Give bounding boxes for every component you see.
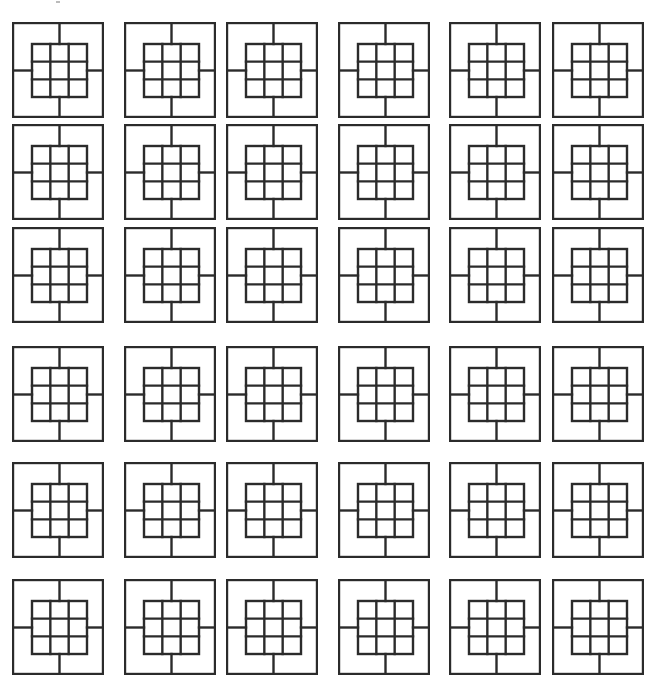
tile-drawing (552, 227, 644, 323)
inner-grid (32, 601, 87, 654)
tile (124, 346, 216, 442)
tile (226, 124, 318, 220)
tile-drawing (12, 579, 104, 675)
inner-grid (572, 601, 627, 654)
inner-grid (246, 146, 301, 199)
tile-drawing (226, 22, 318, 118)
inner-grid (144, 484, 199, 537)
inner-grid (32, 484, 87, 537)
tile (338, 22, 430, 118)
tile (552, 579, 644, 675)
tile-drawing (449, 462, 541, 558)
inner-grid (469, 368, 524, 421)
tile (338, 579, 430, 675)
tile-drawing (12, 462, 104, 558)
inner-grid (469, 249, 524, 302)
inner-grid (32, 44, 87, 97)
tile-drawing (12, 124, 104, 220)
tile-drawing (338, 579, 430, 675)
tile (449, 462, 541, 558)
inner-grid (246, 484, 301, 537)
tile (449, 227, 541, 323)
tile (552, 22, 644, 118)
tile (226, 346, 318, 442)
tile-grid-figure (0, 0, 656, 688)
tile-drawing (226, 579, 318, 675)
tile-drawing (449, 227, 541, 323)
tile-drawing (12, 22, 104, 118)
tile-drawing (12, 227, 104, 323)
tile (338, 227, 430, 323)
tile (449, 579, 541, 675)
tile-drawing (226, 462, 318, 558)
tile (124, 22, 216, 118)
inner-grid (144, 44, 199, 97)
inner-grid (358, 368, 413, 421)
tile-drawing (124, 22, 216, 118)
tile-drawing (12, 346, 104, 442)
tile-drawing (226, 124, 318, 220)
tile-drawing (124, 227, 216, 323)
inner-grid (32, 249, 87, 302)
tile-drawing (226, 346, 318, 442)
tile (226, 22, 318, 118)
inner-grid (144, 249, 199, 302)
tile (449, 124, 541, 220)
inner-grid (32, 368, 87, 421)
tile (12, 462, 104, 558)
tile-drawing (338, 346, 430, 442)
tile-drawing (552, 22, 644, 118)
tile-drawing (124, 124, 216, 220)
inner-grid (358, 601, 413, 654)
inner-grid (572, 484, 627, 537)
tile (552, 227, 644, 323)
inner-grid (246, 249, 301, 302)
tile (226, 579, 318, 675)
tile-drawing (552, 124, 644, 220)
inner-grid (572, 368, 627, 421)
tile (449, 22, 541, 118)
inner-grid (358, 249, 413, 302)
tile (552, 124, 644, 220)
inner-grid (358, 146, 413, 199)
inner-grid (469, 146, 524, 199)
inner-grid (246, 44, 301, 97)
tile (338, 462, 430, 558)
tile (449, 346, 541, 442)
tile (226, 462, 318, 558)
tile (12, 579, 104, 675)
inner-grid (572, 249, 627, 302)
tile-drawing (449, 124, 541, 220)
inner-grid (469, 601, 524, 654)
tile (124, 462, 216, 558)
tile-drawing (338, 124, 430, 220)
inner-grid (572, 146, 627, 199)
tile-drawing (338, 227, 430, 323)
tile (124, 124, 216, 220)
tile (12, 22, 104, 118)
tile (552, 462, 644, 558)
inner-grid (144, 601, 199, 654)
inner-grid (32, 146, 87, 199)
scan-artifact (56, 1, 60, 3)
inner-grid (246, 601, 301, 654)
inner-grid (572, 44, 627, 97)
tile (12, 227, 104, 323)
tile (12, 346, 104, 442)
tile (338, 346, 430, 442)
tile-drawing (449, 346, 541, 442)
tile (12, 124, 104, 220)
tile (226, 227, 318, 323)
tile (124, 579, 216, 675)
tile-drawing (449, 579, 541, 675)
inner-grid (358, 484, 413, 537)
tile-drawing (226, 227, 318, 323)
tile-drawing (449, 22, 541, 118)
tile-drawing (124, 346, 216, 442)
tile (338, 124, 430, 220)
tile-drawing (552, 346, 644, 442)
inner-grid (469, 484, 524, 537)
tile-drawing (338, 22, 430, 118)
inner-grid (246, 368, 301, 421)
tile-drawing (124, 579, 216, 675)
